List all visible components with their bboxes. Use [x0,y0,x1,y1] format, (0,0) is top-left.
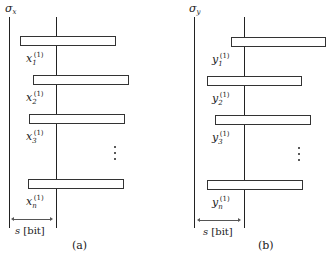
label-xn: xn(1) [26,193,44,212]
sigma-x-label: σx [5,3,16,18]
bar-y3 [215,115,311,125]
label-x3: x3(1) [26,128,44,147]
bar-x3 [29,114,125,124]
bar-y2 [207,76,302,86]
bar-x2 [33,75,129,85]
label-x2: x2(1) [26,89,44,108]
bar-y1 [231,37,326,47]
left-boundary-line [194,17,195,228]
label-y2: y2(1) [212,90,230,109]
bar-xn [28,179,124,189]
label-x1: x1(1) [26,50,44,69]
label-yn: yn(1) [212,194,230,213]
label-y1: y1(1) [212,51,230,70]
double-arrow-icon [14,219,50,220]
caption-b: (b) [258,240,274,251]
bar-yn [207,180,303,190]
bar-x1 [20,36,116,46]
label-y3: y3(1) [212,129,230,148]
double-arrow-icon [200,220,238,221]
unit-label-s-bit: s [bit] [203,227,233,237]
caption-a: (a) [72,240,87,251]
sigma-y-label: σy [189,3,200,18]
left-boundary-line [9,17,10,228]
unit-label-s-bit: s [bit] [15,226,45,236]
